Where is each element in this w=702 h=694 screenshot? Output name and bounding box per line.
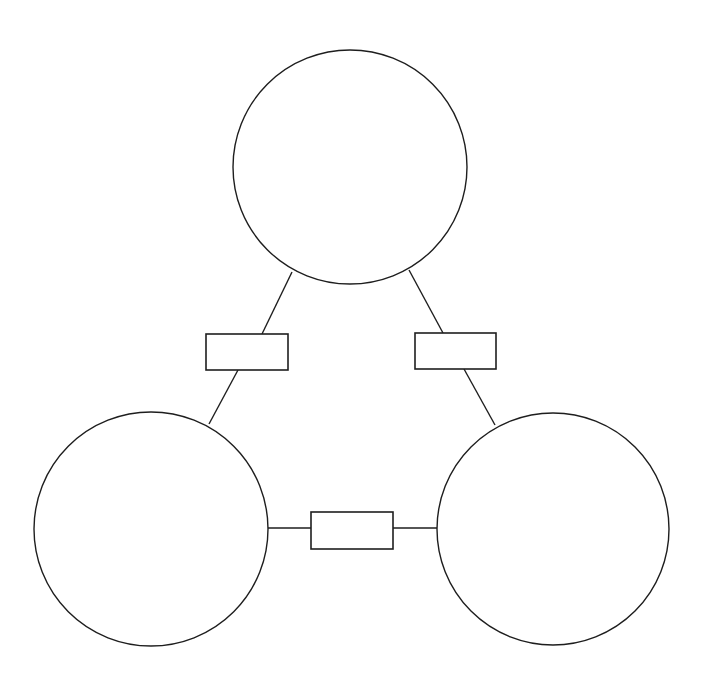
- connector-top-to-bottom-left: [206, 272, 292, 424]
- circle-node-top: [233, 50, 467, 284]
- relationship-box: [415, 333, 496, 369]
- relationship-box: [311, 512, 393, 549]
- connector-line: [209, 370, 238, 424]
- circle-node-bottom-left: [34, 412, 268, 646]
- nodes: [34, 50, 669, 646]
- connector-line: [262, 272, 292, 334]
- connector-line: [409, 270, 443, 333]
- triangle-diagram: [0, 0, 702, 694]
- connector-top-to-bottom-right: [409, 270, 496, 425]
- circle-node-bottom-right: [437, 413, 669, 645]
- connector-line: [464, 369, 495, 425]
- connector-bottom-left-to-bottom-right: [268, 512, 437, 549]
- relationship-box: [206, 334, 288, 370]
